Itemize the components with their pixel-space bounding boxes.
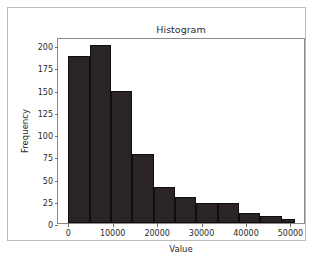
y-tick-mark: [55, 225, 59, 226]
y-tick-label: 25: [43, 198, 53, 207]
x-tick-label: 30000: [189, 229, 214, 238]
histogram-bar: [282, 219, 295, 223]
y-tick-mark: [55, 69, 59, 70]
y-tick-mark: [55, 136, 59, 137]
histogram-bar: [218, 203, 239, 223]
histogram-bar: [111, 91, 132, 223]
y-tick-label: 150: [38, 87, 53, 96]
y-tick-mark: [55, 203, 59, 204]
plot-inner: 0255075100125150175200 01000020000300004…: [58, 39, 304, 223]
y-tick-label: 75: [43, 154, 53, 163]
histogram-bar: [239, 213, 260, 223]
x-tick-mark: [157, 223, 158, 227]
y-tick-label: 0: [48, 221, 53, 230]
plot-area: 0255075100125150175200 01000020000300004…: [57, 38, 305, 224]
x-axis-label: Value: [57, 244, 305, 254]
y-axis-label: Frequency: [19, 38, 31, 224]
y-tick-label: 125: [38, 109, 53, 118]
x-tick-mark: [202, 223, 203, 227]
y-tick-label: 50: [43, 176, 53, 185]
histogram-bar: [175, 197, 196, 223]
x-tick-mark: [113, 223, 114, 227]
histogram-bar: [260, 216, 281, 223]
histogram-bar: [196, 203, 217, 223]
x-tick-label: 10000: [100, 229, 125, 238]
figure-frame: Histogram Frequency 02550751001251501752…: [7, 7, 306, 241]
histogram-bar: [132, 154, 153, 223]
x-tick-label: 40000: [233, 229, 258, 238]
histogram-bar: [90, 45, 111, 223]
histogram-bar: [68, 56, 89, 223]
histogram-bar: [154, 187, 175, 223]
y-tick-mark: [55, 181, 59, 182]
y-tick-label: 100: [38, 132, 53, 141]
y-tick-mark: [55, 114, 59, 115]
y-tick-mark: [55, 92, 59, 93]
y-tick-mark: [55, 47, 59, 48]
y-tick-label: 175: [38, 65, 53, 74]
y-tick-label: 200: [38, 43, 53, 52]
y-tick-mark: [55, 158, 59, 159]
x-tick-mark: [290, 223, 291, 227]
chart-figure: Histogram Frequency 02550751001251501752…: [0, 0, 315, 256]
x-tick-mark: [246, 223, 247, 227]
x-tick-mark: [68, 223, 69, 227]
y-axis-label-text: Frequency: [20, 109, 30, 153]
chart-title: Histogram: [57, 24, 305, 36]
x-tick-label: 50000: [278, 229, 303, 238]
x-tick-label: 20000: [144, 229, 169, 238]
x-tick-label: 0: [66, 229, 71, 238]
